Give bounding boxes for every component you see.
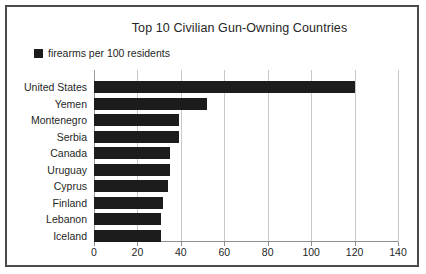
- bar-iceland: [94, 230, 161, 242]
- bar-yemen: [94, 98, 207, 110]
- bar-row: Montenegro: [94, 112, 398, 129]
- bar-row: Finland: [94, 195, 398, 212]
- bar-series: United StatesYemenMontenegroSerbiaCanada…: [94, 79, 398, 236]
- bar-row: Canada: [94, 145, 398, 162]
- legend-swatch-icon: [34, 49, 43, 58]
- bar-canada: [94, 147, 170, 159]
- x-tick-label: 80: [262, 246, 274, 258]
- bar-cyprus: [94, 180, 168, 192]
- x-tick-label: 0: [91, 246, 97, 258]
- chart-frame: Top 10 Civilian Gun-Owning Countries fir…: [5, 5, 419, 267]
- legend-label: firearms per 100 residents: [48, 47, 170, 59]
- category-label-uruguay: Uruguay: [47, 162, 87, 178]
- bar-row: Lebanon: [94, 211, 398, 228]
- bar-uruguay: [94, 164, 170, 176]
- plot-area: United StatesYemenMontenegroSerbiaCanada…: [94, 70, 398, 242]
- bar-row: Uruguay: [94, 162, 398, 179]
- bar-montenegro: [94, 114, 179, 126]
- gridline-140: [398, 70, 399, 242]
- x-tick-label: 140: [389, 246, 407, 258]
- bar-row: United States: [94, 79, 398, 96]
- x-tick-label: 60: [218, 246, 230, 258]
- x-tick-label: 20: [132, 246, 144, 258]
- category-label-iceland: Iceland: [53, 228, 87, 244]
- bar-row: Cyprus: [94, 178, 398, 195]
- category-label-montenegro: Montenegro: [31, 112, 87, 128]
- x-tick-label: 120: [346, 246, 364, 258]
- bar-finland: [94, 197, 163, 209]
- chart-legend: firearms per 100 residents: [34, 47, 170, 59]
- chart-title: Top 10 Civilian Gun-Owning Countries: [7, 21, 417, 35]
- category-label-lebanon: Lebanon: [46, 211, 87, 227]
- category-label-serbia: Serbia: [57, 129, 87, 145]
- category-label-finland: Finland: [53, 195, 87, 211]
- bar-row: Serbia: [94, 129, 398, 146]
- bar-row: Iceland: [94, 228, 398, 245]
- x-tick-label: 100: [302, 246, 320, 258]
- category-label-canada: Canada: [50, 145, 87, 161]
- category-label-yemen: Yemen: [55, 96, 87, 112]
- category-label-cyprus: Cyprus: [54, 178, 87, 194]
- bar-lebanon: [94, 213, 161, 225]
- bar-united-states: [94, 81, 355, 93]
- x-tick-label: 40: [175, 246, 187, 258]
- bar-serbia: [94, 131, 179, 143]
- category-label-united-states: United States: [24, 79, 87, 95]
- bar-row: Yemen: [94, 96, 398, 113]
